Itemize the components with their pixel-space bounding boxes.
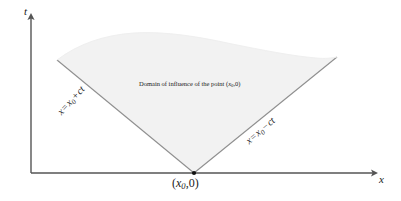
diagram-canvas	[0, 0, 401, 201]
domain-caption-suffix: ,0)	[233, 80, 240, 87]
vertex-caption: (x0,0)	[172, 177, 199, 191]
vertex-close-paren: )	[195, 176, 199, 190]
x-axis-label: x	[379, 174, 384, 185]
domain-of-influence-region	[57, 33, 337, 173]
domain-caption-prefix: Domain of influence of the point (	[139, 80, 228, 87]
vertex-point-marker	[192, 171, 196, 175]
domain-of-influence-figure: t x x=x0+ct x=x0−ct Domain of influence …	[0, 0, 401, 201]
t-axis-label: t	[24, 6, 27, 17]
domain-caption: Domain of influence of the point (x0,0)	[139, 81, 240, 89]
